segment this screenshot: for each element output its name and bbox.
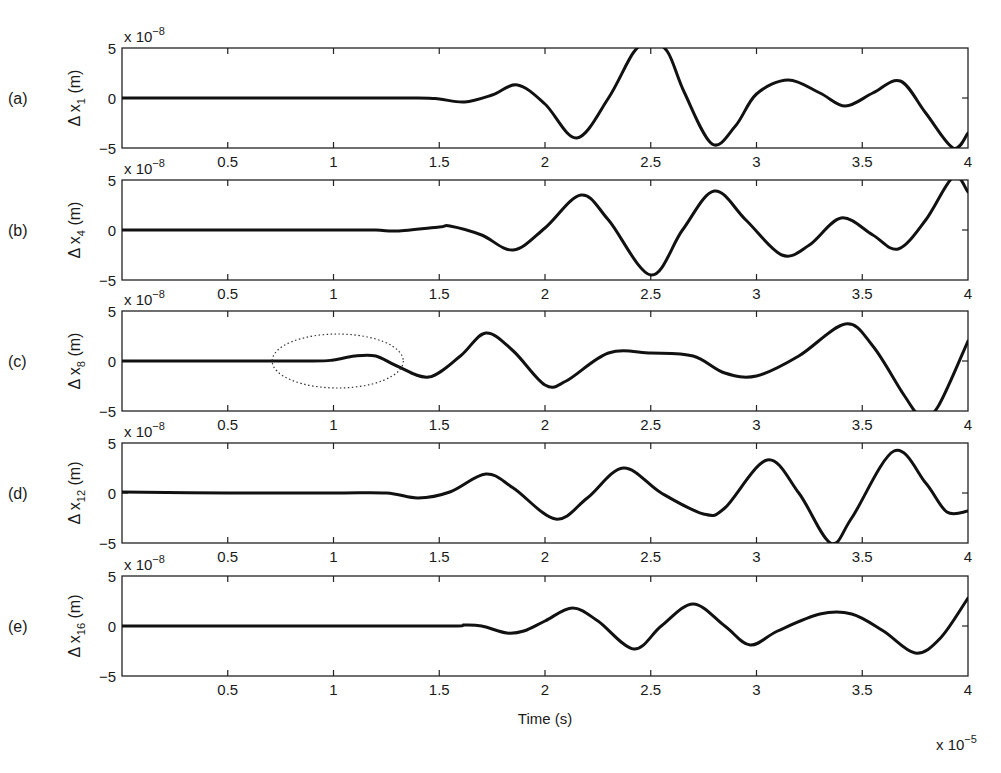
- y-tick-label: 0: [108, 618, 116, 635]
- y-axis-multiplier: x 10−8: [124, 420, 165, 440]
- x-tick-label: 1.5: [429, 153, 450, 170]
- x-tick-label: 1.5: [429, 681, 450, 698]
- subplot-a: 0.511.522.533.54−505x 10−8(a)Δ x1 (m): [8, 25, 972, 170]
- x-tick-label: 2.5: [640, 416, 661, 433]
- panel-tag: (d): [8, 485, 28, 502]
- x-tick-label: 3: [752, 285, 760, 302]
- x-tick-label: 0.5: [217, 416, 238, 433]
- subplot-e: 0.511.522.533.54−505x 10−8(e)Δ x16 (m): [8, 553, 972, 698]
- y-tick-label: 5: [108, 303, 116, 320]
- data-line: [122, 324, 968, 418]
- y-tick-label: 0: [108, 353, 116, 370]
- y-axis-label: Δ x1 (m): [66, 70, 87, 127]
- panel-tag: (a): [8, 90, 28, 107]
- stacked-line-chart: 0.511.522.533.54−505x 10−8(a)Δ x1 (m)0.5…: [0, 0, 1001, 773]
- x-tick-label: 3: [752, 153, 760, 170]
- y-tick-label: 0: [108, 90, 116, 107]
- x-tick-label: 4: [964, 153, 972, 170]
- y-axis-label: Δ x12 (m): [66, 462, 87, 525]
- x-tick-label: 1.5: [429, 416, 450, 433]
- x-multiplier-exponent: −5: [964, 733, 977, 745]
- y-tick-label: 0: [108, 485, 116, 502]
- data-line: [122, 176, 968, 275]
- subplot-group: 0.511.522.533.54−505x 10−8(a)Δ x1 (m)0.5…: [8, 25, 972, 698]
- x-tick-label: 4: [964, 548, 972, 565]
- y-tick-label: 0: [108, 222, 116, 239]
- x-tick-label: 3.5: [852, 285, 873, 302]
- y-tick-label: −5: [99, 668, 116, 685]
- subplot-d: 0.511.522.533.54−505x 10−8(d)Δ x12 (m): [8, 420, 972, 565]
- subplot-b: 0.511.522.533.54−505x 10−8(b)Δ x4 (m): [8, 157, 972, 302]
- x-tick-label: 1: [329, 285, 337, 302]
- x-tick-label: 0.5: [217, 153, 238, 170]
- panel-tag: (e): [8, 618, 28, 635]
- x-tick-label: 1: [329, 548, 337, 565]
- x-tick-label: 2.5: [640, 153, 661, 170]
- y-axis-label: Δ x8 (m): [66, 333, 87, 390]
- y-axis-multiplier: x 10−8: [124, 157, 165, 177]
- subplot-c: 0.511.522.533.54−505x 10−8(c)Δ x8 (m): [8, 288, 972, 433]
- x-tick-label: 2.5: [640, 285, 661, 302]
- x-tick-label: 2.5: [640, 681, 661, 698]
- x-tick-label: 1: [329, 681, 337, 698]
- x-tick-label: 2: [541, 153, 549, 170]
- x-tick-label: 4: [964, 681, 972, 698]
- y-tick-label: 5: [108, 435, 116, 452]
- x-tick-label: 2: [541, 681, 549, 698]
- y-tick-label: −5: [99, 535, 116, 552]
- x-tick-label: 0.5: [217, 285, 238, 302]
- x-tick-label: 0.5: [217, 681, 238, 698]
- data-line: [122, 598, 968, 653]
- y-tick-label: 5: [108, 40, 116, 57]
- svg-text:x 10−5: x 10−5: [936, 733, 977, 753]
- x-tick-label: 3: [752, 416, 760, 433]
- x-tick-label: 2: [541, 285, 549, 302]
- x-tick-label: 3.5: [852, 548, 873, 565]
- x-tick-label: 3.5: [852, 416, 873, 433]
- y-tick-label: −5: [99, 140, 116, 157]
- data-line: [122, 450, 968, 544]
- panel-tag: (b): [8, 222, 28, 239]
- x-axis-multiplier: x 10−5: [936, 733, 977, 753]
- x-tick-label: 2: [541, 548, 549, 565]
- x-tick-label: 1: [329, 416, 337, 433]
- y-axis-label: Δ x16 (m): [66, 595, 87, 658]
- x-multiplier-base: x 10: [936, 736, 964, 753]
- x-tick-label: 1: [329, 153, 337, 170]
- x-axis-label: Time (s): [518, 710, 572, 727]
- x-tick-label: 1.5: [429, 285, 450, 302]
- x-tick-label: 3.5: [852, 681, 873, 698]
- x-tick-label: 0.5: [217, 548, 238, 565]
- x-tick-label: 3.5: [852, 153, 873, 170]
- x-tick-label: 2.5: [640, 548, 661, 565]
- y-tick-label: −5: [99, 272, 116, 289]
- x-tick-label: 1.5: [429, 548, 450, 565]
- y-tick-label: −5: [99, 403, 116, 420]
- y-axis-multiplier: x 10−8: [124, 25, 165, 45]
- x-tick-label: 3: [752, 681, 760, 698]
- figure: 0.511.522.533.54−505x 10−8(a)Δ x1 (m)0.5…: [0, 0, 1001, 773]
- y-tick-label: 5: [108, 172, 116, 189]
- y-tick-label: 5: [108, 568, 116, 585]
- y-axis-multiplier: x 10−8: [124, 553, 165, 573]
- data-line: [122, 42, 968, 148]
- x-tick-label: 3: [752, 548, 760, 565]
- x-tick-label: 2: [541, 416, 549, 433]
- y-axis-label: Δ x4 (m): [66, 202, 87, 259]
- panel-tag: (c): [8, 353, 27, 370]
- x-tick-label: 4: [964, 416, 972, 433]
- y-axis-multiplier: x 10−8: [124, 288, 165, 308]
- x-tick-label: 4: [964, 285, 972, 302]
